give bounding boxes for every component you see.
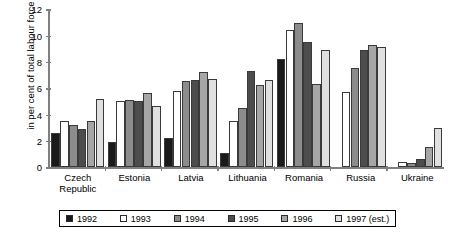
bar <box>87 121 96 167</box>
legend-swatch-icon <box>120 215 127 222</box>
category-label: Ukraine <box>389 172 446 194</box>
category-label: Czech Republic <box>50 172 107 194</box>
legend-label: 1997 (est.) <box>346 214 389 224</box>
bar-group <box>219 10 275 167</box>
bar <box>69 125 78 167</box>
category-label: Estonia <box>106 172 163 194</box>
bar <box>229 121 238 167</box>
legend-item: 1993 <box>114 214 168 224</box>
y-tick-label: 8 <box>37 56 42 67</box>
bar <box>220 153 229 167</box>
legend-item: 1995 <box>222 214 276 224</box>
bar <box>265 80 274 167</box>
bar <box>425 147 434 167</box>
bar <box>360 50 369 167</box>
bar-group <box>50 10 106 167</box>
bar <box>368 45 377 167</box>
category-label: Lithuania <box>219 172 276 194</box>
bar <box>125 100 134 167</box>
bar <box>182 81 191 167</box>
bar <box>416 159 425 167</box>
bar <box>247 71 256 167</box>
legend-label: 1992 <box>77 214 97 224</box>
bar-group <box>331 10 387 167</box>
bar <box>398 162 407 167</box>
bar <box>208 79 217 167</box>
legend-label: 1995 <box>239 214 259 224</box>
bar <box>152 106 161 167</box>
category-label: Russia <box>332 172 389 194</box>
bar <box>277 59 286 167</box>
bar <box>143 93 152 167</box>
bar <box>199 72 208 167</box>
legend-label: 1994 <box>185 214 205 224</box>
y-tick-label: 12 <box>31 4 42 15</box>
legend-label: 1993 <box>131 214 151 224</box>
bar <box>173 91 182 167</box>
bar <box>321 50 330 167</box>
legend-label: 1996 <box>292 214 312 224</box>
legend-item: 1996 <box>275 214 329 224</box>
y-tick-label: 10 <box>31 30 42 41</box>
bar <box>256 85 265 167</box>
chart-legend: 199219931994199519961997 (est.) <box>59 210 396 227</box>
bar-chart-figure: in per cent of total labour force 024681… <box>0 0 454 244</box>
legend-swatch-icon <box>281 215 288 222</box>
y-tick-label: 4 <box>37 109 42 120</box>
bar <box>351 68 360 167</box>
y-tick-label: 2 <box>37 135 42 146</box>
bar <box>134 101 143 167</box>
bar <box>407 163 416 167</box>
bar <box>286 30 295 167</box>
bar-group <box>162 10 218 167</box>
bar <box>342 92 351 167</box>
category-label: Latvia <box>163 172 220 194</box>
bar <box>164 138 173 167</box>
bar <box>312 84 321 167</box>
legend-swatch-icon <box>228 215 235 222</box>
bar <box>434 128 443 168</box>
bar <box>377 47 386 167</box>
legend-swatch-icon <box>66 215 73 222</box>
bar <box>191 80 200 167</box>
bar <box>60 121 69 167</box>
legend-item: 1992 <box>60 214 114 224</box>
legend-swatch-icon <box>174 215 181 222</box>
bar-group <box>106 10 162 167</box>
y-tick-label: 6 <box>37 83 42 94</box>
x-axis-category-labels: Czech RepublicEstoniaLatviaLithuaniaRoma… <box>50 172 446 194</box>
bar <box>116 101 125 167</box>
x-axis-line <box>48 167 444 169</box>
bar <box>294 23 303 167</box>
bar <box>303 42 312 167</box>
legend-item: 1994 <box>168 214 222 224</box>
legend-swatch-icon <box>335 215 342 222</box>
bar <box>78 129 87 167</box>
bar-groups <box>50 10 445 167</box>
bar-group <box>275 10 331 167</box>
category-label: Romania <box>276 172 333 194</box>
bar <box>238 108 247 167</box>
bar <box>108 142 117 167</box>
y-axis-title: in per cent of total labour force <box>25 0 36 151</box>
y-tick-mark: 0 <box>46 167 51 169</box>
legend-item: 1997 (est.) <box>329 214 395 224</box>
plot-area: 024681012 <box>48 10 444 168</box>
y-tick-label: 0 <box>37 162 42 173</box>
bar <box>51 133 60 167</box>
bar-group <box>388 10 444 167</box>
bar <box>96 99 105 167</box>
